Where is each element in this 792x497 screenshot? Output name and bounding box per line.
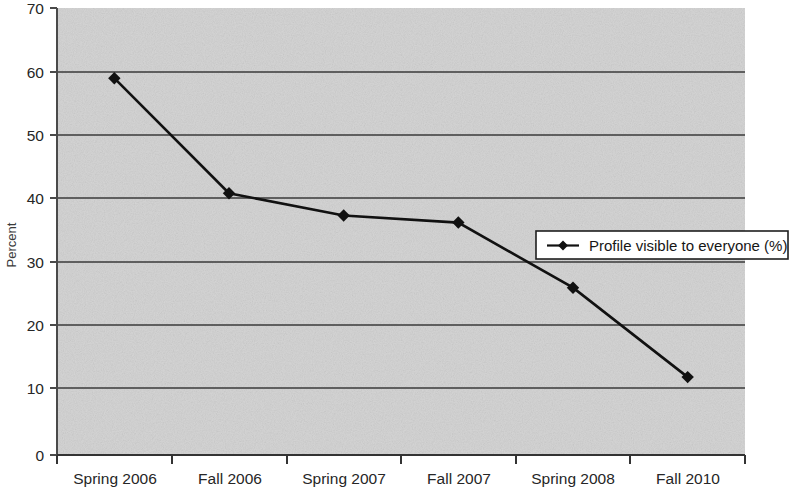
x-tick-label-fall-2006: Fall 2006 (198, 470, 262, 487)
legend-label-profile-visible: Profile visible to everyone (%) (589, 237, 787, 254)
x-tick-label-spring-2007: Spring 2007 (302, 470, 386, 487)
legend[interactable]: Profile visible to everyone (%) (536, 231, 788, 259)
y-tick-label-0: 0 (35, 447, 44, 464)
line-chart: 70 60 50 40 30 20 10 0 Percent Spring 20… (0, 0, 792, 497)
y-tick-label-70: 70 (27, 0, 45, 17)
y-axis-title: Percent (4, 222, 19, 267)
y-tick-label-10: 10 (27, 380, 45, 397)
x-tick-label-fall-2007: Fall 2007 (427, 470, 491, 487)
y-tick-label-40: 40 (27, 190, 45, 207)
y-tick-label-50: 50 (27, 127, 45, 144)
x-tick-label-spring-2008: Spring 2008 (531, 470, 615, 487)
y-tick-label-60: 60 (27, 64, 45, 81)
y-tick-label-20: 20 (27, 317, 45, 334)
x-tick-label-fall-2010: Fall 2010 (656, 470, 720, 487)
y-tick-label-30: 30 (27, 254, 45, 271)
x-tick-label-spring-2006: Spring 2006 (73, 470, 157, 487)
chart-figure: 70 60 50 40 30 20 10 0 Percent Spring 20… (0, 0, 792, 497)
